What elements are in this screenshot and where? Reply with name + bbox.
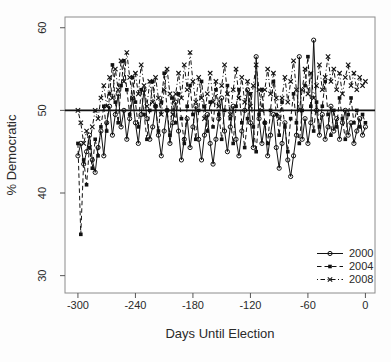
marker-filled-square	[171, 96, 175, 100]
x-tick-label: 0	[362, 299, 368, 311]
marker-filled-square	[85, 183, 89, 187]
marker-filled-square	[326, 113, 330, 117]
marker-filled-square	[185, 104, 189, 108]
marker-filled-square	[91, 166, 95, 170]
marker-filled-square	[220, 137, 224, 141]
marker-filled-square	[243, 146, 247, 150]
marker-filled-square	[303, 84, 307, 88]
marker-filled-square	[145, 137, 149, 141]
marker-filled-square	[297, 142, 301, 146]
marker-filled-square	[277, 133, 281, 137]
marker-filled-square	[361, 113, 365, 117]
marker-filled-square	[174, 121, 178, 125]
y-tick-label: 40	[36, 187, 48, 199]
marker-filled-square	[183, 142, 187, 146]
marker-filled-square	[111, 63, 115, 67]
marker-filled-square	[257, 113, 261, 117]
marker-filled-square	[82, 158, 86, 162]
marker-filled-square	[306, 55, 310, 59]
marker-filled-square	[266, 142, 270, 146]
marker-filled-square	[76, 142, 80, 146]
x-axis-title: Days Until Election	[165, 326, 274, 341]
marker-filled-square	[137, 125, 141, 129]
marker-filled-square	[289, 117, 293, 121]
marker-filled-square	[99, 125, 103, 129]
marker-filled-square	[211, 125, 215, 129]
marker-filled-square	[229, 117, 233, 121]
marker-filled-square	[226, 84, 230, 88]
marker-filled-square	[168, 133, 172, 137]
marker-filled-square	[263, 121, 267, 125]
marker-filled-square	[283, 125, 287, 129]
marker-filled-square	[96, 154, 100, 158]
y-tick-label: 30	[36, 270, 48, 282]
marker-filled-square	[335, 125, 339, 129]
marker-filled-square	[312, 129, 316, 133]
legend-label: 2000	[349, 247, 373, 259]
y-tick-label: 50	[36, 104, 48, 116]
marker-filled-square	[194, 137, 198, 141]
marker-filled-square	[349, 96, 353, 100]
marker-filled-square	[346, 113, 350, 117]
marker-filled-square	[134, 100, 138, 104]
marker-filled-square	[295, 121, 299, 125]
marker-filled-square	[338, 96, 342, 100]
x-tick-label: -300	[67, 299, 89, 311]
marker-filled-square	[180, 117, 184, 121]
marker-filled-square	[231, 142, 235, 146]
x-tick-label: -120	[239, 299, 261, 311]
legend-label: 2008	[349, 273, 373, 285]
marker-filled-square	[217, 113, 221, 117]
marker-filled-square	[188, 84, 192, 88]
marker-filled-square	[200, 80, 204, 84]
marker-filled-square	[246, 117, 250, 121]
marker-filled-square	[139, 88, 143, 92]
marker-filled-square	[292, 92, 296, 96]
marker-filled-square	[116, 121, 120, 125]
legend-label: 2004	[349, 260, 373, 272]
marker-filled-square	[157, 129, 161, 133]
marker-filled-square	[318, 125, 322, 129]
marker-filled-square	[191, 113, 195, 117]
marker-filled-square	[254, 150, 258, 154]
x-tick-label: -60	[300, 299, 316, 311]
polling-chart-figure: -300-240-180-120-60030405060 20002004200…	[0, 0, 391, 362]
polling-chart: -300-240-180-120-60030405060 20002004200…	[0, 0, 391, 362]
marker-filled-square	[315, 100, 319, 104]
marker-filled-square	[154, 104, 158, 108]
marker-filled-square	[197, 109, 201, 113]
marker-filled-square	[240, 121, 244, 125]
marker-filled-square	[142, 113, 146, 117]
marker-filled-square	[341, 117, 345, 121]
marker-filled-square	[165, 109, 169, 113]
y-axis-title: % Democratic	[4, 114, 19, 195]
y-tick-label: 60	[36, 22, 48, 34]
marker-filled-square	[309, 104, 313, 108]
marker-filled-square	[206, 129, 210, 133]
marker-filled-square	[119, 84, 123, 88]
marker-filled-square	[352, 121, 356, 125]
marker-filled-square	[274, 113, 278, 117]
marker-filled-square	[251, 125, 255, 129]
marker-filled-square	[320, 104, 324, 108]
x-tick-label: -180	[182, 299, 204, 311]
marker-filled-square	[148, 109, 152, 113]
marker-filled-square	[269, 109, 273, 113]
marker-filled-square	[355, 109, 359, 113]
legend-marker-filled-square	[328, 265, 332, 269]
marker-filled-square	[343, 137, 347, 141]
marker-filled-square	[323, 80, 327, 84]
marker-filled-square	[364, 121, 368, 125]
marker-filled-square	[79, 233, 83, 237]
marker-filled-square	[332, 109, 336, 113]
marker-filled-square	[286, 150, 290, 154]
marker-filled-square	[93, 137, 97, 141]
marker-filled-square	[114, 100, 118, 104]
marker-filled-square	[358, 125, 362, 129]
marker-filled-square	[162, 71, 166, 75]
x-tick-label: -240	[124, 299, 146, 311]
marker-filled-square	[234, 104, 238, 108]
marker-filled-square	[105, 129, 109, 133]
marker-filled-square	[125, 88, 129, 92]
marker-filled-square	[223, 109, 227, 113]
